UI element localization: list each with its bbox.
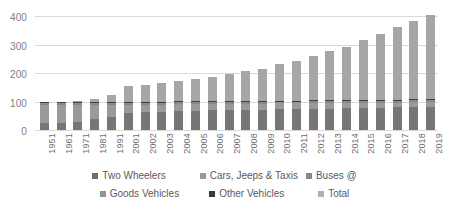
chart-legend: Two WheelersCars, Jeeps & TaxisBuses @ G… xyxy=(0,168,449,212)
bar-column xyxy=(191,17,200,131)
bar-column xyxy=(107,17,116,131)
bar-segment xyxy=(174,101,183,102)
x-axis-tick-label: 1991 xyxy=(115,133,125,154)
legend-item[interactable]: Buses @ xyxy=(306,170,357,181)
bar-segment xyxy=(225,101,234,102)
bar-column xyxy=(393,17,402,131)
x-axis-tick-label: 1971 xyxy=(81,133,91,154)
bar-segment xyxy=(174,111,183,131)
bar-segment xyxy=(393,101,402,102)
bar-segment xyxy=(40,102,49,103)
bar-segment xyxy=(208,110,217,131)
bar-segment xyxy=(191,102,200,103)
bar-segment xyxy=(342,103,351,109)
bar-segment xyxy=(292,109,301,131)
bar-segment xyxy=(409,100,418,101)
x-axis-tick-label: 2010 xyxy=(282,133,292,154)
bar-segment xyxy=(359,103,368,108)
y-axis-tick-label: 200 xyxy=(10,69,27,80)
legend-item[interactable]: Two Wheelers xyxy=(92,170,165,181)
bar-segment xyxy=(409,21,418,99)
bar-segment xyxy=(174,104,183,111)
bar-column xyxy=(342,17,351,131)
bar-segment xyxy=(426,15,435,99)
bar-segment xyxy=(376,101,385,102)
bar-segment xyxy=(157,102,166,103)
x-axis-tick-label: 2006 xyxy=(215,133,225,154)
legend-item[interactable]: Cars, Jeeps & Taxis xyxy=(200,170,298,181)
bar-segment xyxy=(208,101,217,102)
bar-segment xyxy=(258,69,267,101)
bar-segment xyxy=(191,79,200,101)
bar-segment xyxy=(90,104,99,119)
bar-segment xyxy=(325,51,334,100)
bar-segment xyxy=(225,104,234,111)
bar-segment xyxy=(73,101,82,102)
bar-segment xyxy=(124,113,133,131)
bar-segment xyxy=(275,101,284,102)
legend-swatch-icon xyxy=(306,173,312,179)
bar-segment xyxy=(174,102,183,103)
bar-segment xyxy=(292,101,301,102)
bar-segment xyxy=(107,102,116,103)
bar-segment xyxy=(376,34,385,100)
bar-column xyxy=(409,17,418,131)
x-axis-tick-label: 1961 xyxy=(64,133,74,154)
bar-column xyxy=(141,17,150,131)
legend-item-label: Two Wheelers xyxy=(102,170,165,181)
bar-segment xyxy=(342,101,351,102)
bar-segment xyxy=(107,103,116,104)
bar-segment xyxy=(57,102,66,103)
bar-segment xyxy=(174,81,183,102)
x-axis-tick-label: 2008 xyxy=(249,133,259,154)
bar-segment xyxy=(258,110,267,131)
bar-segment xyxy=(141,102,150,103)
legend-swatch-icon xyxy=(209,191,215,197)
bar-column xyxy=(292,17,301,131)
legend-item[interactable]: Total xyxy=(318,188,349,199)
bar-column xyxy=(73,17,82,131)
legend-swatch-icon xyxy=(92,173,98,179)
legend-item-label: Buses @ xyxy=(316,170,357,181)
x-axis-tick-label: 1951 xyxy=(47,133,57,154)
bar-segment xyxy=(208,77,217,101)
bar-segment xyxy=(107,117,116,131)
bar-segment xyxy=(309,101,318,102)
legend-swatch-icon xyxy=(200,173,206,179)
bar-segment xyxy=(359,108,368,131)
bar-segment xyxy=(107,105,116,117)
bar-segment xyxy=(426,100,435,101)
legend-item[interactable]: Goods Vehicles xyxy=(100,188,180,199)
bar-column xyxy=(124,17,133,131)
legend-item-label: Other Vehicles xyxy=(219,188,284,199)
bar-segment xyxy=(325,100,334,101)
x-axis: 1951196119711981199120012002200320042005… xyxy=(35,133,438,165)
bar-segment xyxy=(325,103,334,109)
bar-column xyxy=(376,17,385,131)
bar-segment xyxy=(376,108,385,131)
bar-segment xyxy=(90,99,99,101)
bar-segment xyxy=(409,99,418,100)
x-axis-tick-label: 1981 xyxy=(98,133,108,154)
bar-segment xyxy=(292,103,301,109)
legend-item[interactable]: Other Vehicles xyxy=(209,188,284,199)
bar-segment xyxy=(73,103,82,104)
bar-segment xyxy=(359,40,368,100)
x-axis-tick-label: 2013 xyxy=(333,133,343,154)
bars-layer xyxy=(35,17,438,131)
bar-segment xyxy=(409,107,418,131)
legend-item-label: Total xyxy=(328,188,349,199)
x-axis-tick-label: 2005 xyxy=(199,133,209,154)
bar-segment xyxy=(141,85,150,102)
bar-column xyxy=(275,17,284,131)
legend-item-label: Cars, Jeeps & Taxis xyxy=(210,170,298,181)
bar-segment xyxy=(393,107,402,131)
bar-segment xyxy=(292,61,301,101)
x-axis-tick-label: 2012 xyxy=(316,133,326,154)
bar-segment xyxy=(309,56,318,100)
bar-segment xyxy=(208,102,217,103)
bar-segment xyxy=(393,100,402,101)
bar-segment xyxy=(393,27,402,100)
bar-segment xyxy=(325,101,334,102)
bar-segment xyxy=(107,95,116,102)
